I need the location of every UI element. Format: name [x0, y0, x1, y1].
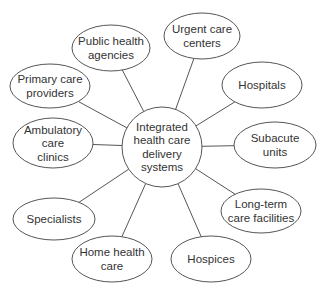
node-label-line: delivery: [142, 148, 182, 160]
hub-spoke-diagram: Public healthagenciesUrgent carecentersP…: [0, 0, 322, 292]
node-urgent-care-centers: Urgent carecenters: [164, 13, 240, 59]
node-label-line: Integrated: [136, 121, 188, 133]
node-home-health-care: Home healthcare: [72, 236, 152, 282]
node-hospitals: Hospitals: [222, 62, 302, 108]
central-hub: Integratedhealth caredeliverysystems: [122, 107, 202, 187]
node-label-line: Hospices: [187, 253, 235, 265]
node-primary-care-providers: Primary careproviders: [10, 64, 90, 108]
connector-line-primary-care-providers: [78, 102, 127, 128]
connector-line-urgent-care-centers: [176, 59, 194, 110]
connector-line-long-term-care-facilities: [196, 169, 236, 195]
node-label-line: Public health: [78, 35, 144, 47]
node-label-line: providers: [26, 87, 74, 99]
node-label-line: Specialists: [27, 213, 82, 225]
node-label-line: agencies: [88, 49, 134, 61]
connector-line-ambulatory-care-clinics: [93, 145, 122, 146]
node-label-line: Urgent care: [172, 23, 232, 35]
node-label-line: Ambulatory: [24, 124, 82, 136]
connector-line-hospices: [178, 184, 201, 237]
connector-line-public-health-agencies: [122, 70, 143, 111]
node-specialists: Specialists: [13, 198, 95, 240]
node-label-line: care: [101, 260, 123, 272]
node-label-line: Home health: [79, 246, 144, 258]
diagram-canvas: Public healthagenciesUrgent carecentersP…: [0, 0, 322, 292]
node-label-line: Hospitals: [238, 79, 286, 91]
node-label-line: systems: [141, 161, 183, 173]
connector-line-hospitals: [196, 102, 235, 126]
node-long-term-care-facilities: Long-termcare facilities: [221, 189, 301, 233]
connector-line-subacute-units: [202, 146, 234, 147]
node-label-line: care facilities: [228, 212, 295, 224]
node-label-line: Subacute: [251, 132, 300, 144]
connector-line-home-health-care: [122, 184, 146, 237]
node-label-line: care: [42, 137, 64, 149]
node-public-health-agencies: Public healthagencies: [72, 25, 150, 71]
node-label-line: Primary care: [17, 73, 82, 85]
node-ambulatory-care-clinics: Ambulatorycareclinics: [13, 118, 93, 168]
node-hospices: Hospices: [171, 236, 251, 282]
node-label-line: Long-term: [235, 198, 287, 210]
node-label-line: units: [263, 146, 288, 158]
connector-line-specialists: [79, 169, 129, 202]
node-label-line: health care: [134, 134, 191, 146]
node-label-line: centers: [183, 37, 221, 49]
node-label-line: clinics: [37, 151, 69, 163]
node-subacute-units: Subacuteunits: [234, 122, 316, 168]
